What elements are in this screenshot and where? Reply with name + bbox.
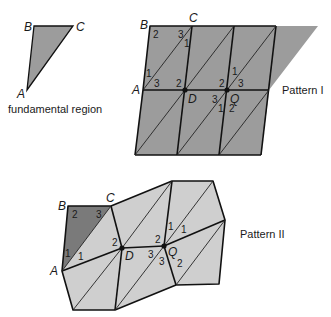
point-q [224,87,229,92]
vertex-label-d: D [125,249,134,263]
pattern-1: B C A D Q 2 3 1 1 3 2 2 1 3 3 1 2 Patter… [131,11,324,155]
angle-label: 3 [159,256,165,267]
fundamental-region: B C A fundamental region [8,20,102,115]
point-d [182,87,187,92]
angle-label: 1 [78,251,84,262]
pattern-2-caption: Pattern II [240,228,285,240]
vertex-label-a: A [131,83,140,97]
vertex-label-b: B [24,20,32,34]
fundamental-region-caption: fundamental region [8,103,102,115]
angle-label: 1 [146,68,152,79]
angle-label: 2 [177,258,183,269]
pattern-1-caption: Pattern I [282,84,324,96]
angle-label: 2 [155,234,161,245]
angle-label: 1 [181,224,187,235]
symmetry-diagram: B C A fundamental region B C A D Q 2 3 [0,0,331,317]
angle-label: 1 [218,103,224,114]
vertex-label-b: B [58,199,66,213]
angle-label: 2 [72,209,78,220]
pattern-2: B C A D Q 2 3 1 1 2 2 1 1 3 3 2 Pattern … [49,181,285,310]
angle-label: 3 [148,249,154,260]
angle-label: 1 [184,38,190,49]
vertex-label-a: A [49,264,58,278]
angle-label: 2 [219,78,225,89]
vertex-label-d: D [188,92,197,106]
angle-label: 1 [232,66,238,77]
angle-label: 3 [238,78,244,89]
angle-label: 1 [168,221,174,232]
angle-label: 2 [153,29,159,40]
point-d [119,245,124,250]
angle-label: 2 [229,103,235,114]
vertex-label-q: Q [168,245,177,259]
angle-label: 2 [176,78,182,89]
angle-label: 3 [96,209,102,220]
vertex-label-c: C [106,191,115,205]
vertex-label-c: C [189,11,198,25]
vertex-label-c: C [76,20,85,34]
vertex-label-a: A [16,87,25,101]
angle-label: 3 [154,78,160,89]
angle-label: 2 [112,237,118,248]
angle-label: 1 [65,248,71,259]
vertex-label-b: B [140,18,148,32]
point-q [161,243,166,248]
